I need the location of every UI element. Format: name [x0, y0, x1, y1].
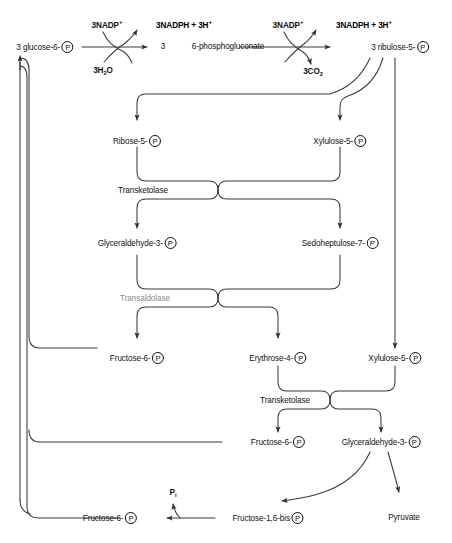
curve-nadph-out-left	[104, 30, 137, 62]
phosphate-circle-icon: P	[149, 135, 161, 147]
recycle-riser-foot	[20, 500, 30, 514]
metabolite-label: Fructose-6-	[110, 354, 151, 363]
metabolite-label: Glyceraldehyde-3-	[342, 438, 407, 447]
curve-g3p-to-fbp	[282, 452, 370, 501]
phosphate-circle-icon: P	[408, 436, 420, 448]
metabolite-label: Sedoheptulose-7-	[302, 239, 365, 248]
metabolite-label: Ribose-5-	[113, 137, 148, 146]
metabolite-xylulose-5-phosphate-lower: Xylulose-5- P	[368, 352, 421, 364]
phosphate-circle-icon: P	[355, 135, 367, 147]
metabolite-label: 3 glucose-6-	[16, 43, 60, 52]
phosphate-circle-icon: P	[152, 352, 164, 364]
metabolite-fructose-6-phosphate-mid: Fructose-6- P	[251, 436, 305, 448]
split-to-e4p	[218, 298, 278, 338]
metabolite-xylulose-5-phosphate-top: Xylulose-5- P	[313, 135, 366, 147]
join-xu5p-down	[218, 147, 340, 190]
metabolite-ribose-5-phosphate: Ribose-5- P	[113, 135, 161, 147]
metabolite-label: Fructose-1,6-bis	[232, 514, 290, 523]
metabolite-label: Fructose-6-	[83, 514, 124, 523]
phosphate-circle-icon: P	[366, 237, 378, 249]
metabolite-label: Glyceraldehyde-3-	[98, 239, 163, 248]
phosphate-circle-icon: P	[292, 512, 304, 524]
join-xu5p-lower-down	[330, 366, 395, 400]
phosphate-circle-icon: P	[164, 237, 176, 249]
split-to-f6p-mid	[278, 400, 330, 432]
cofactor-inorganic-phosphate: Pi	[170, 488, 177, 499]
split-to-s7p	[218, 190, 340, 228]
phosphate-circle-icon: P	[417, 41, 429, 53]
pathway-diagram: 3 glucose-6- P 3 6-phosphogluconate 3 ri…	[0, 0, 452, 543]
metabolite-ribulose-5-phosphate: 3 ribulose-5- P	[371, 41, 429, 53]
metabolite-erythrose-4-phosphate: Erythrose-4- P	[249, 352, 306, 364]
metabolite-glyceraldehyde-3-phosphate-lower: Glyceraldehyde-3- P	[342, 436, 421, 448]
split-to-f6p-upper	[137, 298, 218, 338]
join-s7p-down	[218, 255, 340, 298]
pathway-connectors	[0, 0, 452, 543]
metabolite-fructose-6-phosphate-upper: Fructose-6- P	[110, 352, 164, 364]
cofactor-nadph-left: 3NADPH + 3H+	[156, 18, 212, 30]
metabolite-fructose-1-6-bisphosphate: Fructose-1,6-bis P	[232, 512, 303, 524]
cofactor-nadph-right: 3NADPH + 3H+	[336, 18, 392, 30]
branch-ru5p-to-r5p	[137, 58, 370, 120]
phosphate-circle-icon: P	[295, 352, 307, 364]
recycle-mid-f6p	[29, 430, 222, 442]
cofactor-water-left: 3H2O	[93, 66, 113, 77]
phosphate-circle-icon: P	[293, 436, 305, 448]
recycle-bottom-f6p	[20, 66, 120, 518]
enzyme-transaldolase: Transaldolase	[120, 294, 170, 303]
split-to-g3p-lower	[330, 400, 381, 432]
join-g3p-down	[137, 255, 218, 298]
metabolite-fructose-6-phosphate-bottom: Fructose-6- P	[83, 512, 137, 524]
metabolite-sedoheptulose-7-phosphate: Sedoheptulose-7- P	[302, 237, 379, 249]
phosphate-circle-icon: P	[62, 41, 74, 53]
recycle-upper-f6p	[20, 58, 97, 348]
cofactor-carbon-dioxide: 3CO2	[303, 67, 323, 78]
arrow-g3p-to-pyruvate	[388, 452, 399, 492]
metabolite-label: Fructose-6-	[251, 438, 292, 447]
metabolite-glucose-6-phosphate: 3 glucose-6- P	[16, 41, 73, 53]
metabolite-label: 3 ribulose-5-	[371, 43, 415, 52]
cofactor-nadp-left: 3NADP+	[92, 18, 123, 30]
curve-nadph-out-right	[285, 30, 316, 62]
metabolite-6-phosphogluconate: 6-phosphogluconate	[192, 43, 264, 51]
branch-ru5p-to-xu5p-top	[340, 58, 383, 120]
join-r5p-down	[137, 147, 218, 190]
split-to-g3p	[137, 190, 218, 228]
enzyme-transketolase-1: Transketolase	[118, 186, 168, 195]
metabolite-label: Erythrose-4-	[249, 354, 293, 363]
phosphate-circle-icon: P	[410, 352, 422, 364]
metabolite-pyruvate: Pyruvate	[388, 514, 420, 522]
metabolite-label: Xylulose-5-	[313, 137, 353, 146]
metabolite-label: Xylulose-5-	[368, 354, 408, 363]
cofactor-nadp-right: 3NADP+	[273, 18, 304, 30]
enzyme-transketolase-2: Transketolase	[260, 396, 310, 405]
phosphogluconate-count: 3	[161, 43, 165, 51]
metabolite-glyceraldehyde-3-phosphate-mid: Glyceraldehyde-3- P	[98, 237, 177, 249]
phosphate-circle-icon: P	[125, 512, 137, 524]
curve-pi-release	[173, 504, 180, 518]
